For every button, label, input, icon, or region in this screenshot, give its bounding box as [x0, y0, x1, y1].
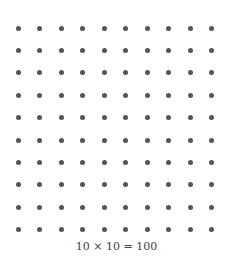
- dot: [102, 205, 107, 210]
- dot: [145, 227, 150, 232]
- dot: [166, 205, 171, 210]
- dot: [59, 26, 64, 31]
- dot: [37, 138, 42, 143]
- dot: [102, 93, 107, 98]
- dot: [145, 115, 150, 120]
- dot: [37, 205, 42, 210]
- dot: [209, 70, 214, 75]
- dot: [209, 138, 214, 143]
- dot: [123, 115, 128, 120]
- dot: [16, 115, 21, 120]
- dot: [145, 138, 150, 143]
- dot: [209, 182, 214, 187]
- dot: [145, 70, 150, 75]
- dot: [188, 227, 193, 232]
- dot: [37, 182, 42, 187]
- dot: [145, 160, 150, 165]
- dot: [59, 48, 64, 53]
- dot: [80, 182, 85, 187]
- dot: [209, 93, 214, 98]
- dot: [16, 93, 21, 98]
- dot: [59, 138, 64, 143]
- dot: [188, 160, 193, 165]
- dot: [59, 205, 64, 210]
- dot: [80, 26, 85, 31]
- dot: [16, 138, 21, 143]
- dot: [37, 48, 42, 53]
- dot: [37, 93, 42, 98]
- caption: 10 × 10 = 100: [0, 240, 233, 253]
- dot: [16, 70, 21, 75]
- dot: [16, 160, 21, 165]
- dot: [123, 93, 128, 98]
- dot: [59, 93, 64, 98]
- dot: [80, 70, 85, 75]
- dot: [59, 160, 64, 165]
- dot: [80, 138, 85, 143]
- dot: [209, 227, 214, 232]
- dot: [80, 93, 85, 98]
- dot: [59, 70, 64, 75]
- dot: [188, 182, 193, 187]
- dot: [37, 227, 42, 232]
- dot: [123, 138, 128, 143]
- dot: [102, 182, 107, 187]
- dot: [209, 26, 214, 31]
- dot: [145, 182, 150, 187]
- dot: [209, 205, 214, 210]
- dot: [102, 115, 107, 120]
- dot: [123, 205, 128, 210]
- dot: [123, 182, 128, 187]
- dot: [166, 138, 171, 143]
- dot: [59, 227, 64, 232]
- dot: [166, 227, 171, 232]
- dot: [102, 48, 107, 53]
- dot: [102, 26, 107, 31]
- dot: [188, 115, 193, 120]
- dot: [166, 26, 171, 31]
- dot: [188, 26, 193, 31]
- dot: [16, 227, 21, 232]
- dot: [188, 138, 193, 143]
- dot-array: [0, 0, 233, 268]
- dot: [123, 48, 128, 53]
- dot: [123, 160, 128, 165]
- dot: [102, 160, 107, 165]
- dot: [102, 70, 107, 75]
- dot: [166, 115, 171, 120]
- dot: [37, 115, 42, 120]
- dot: [80, 160, 85, 165]
- dot: [37, 26, 42, 31]
- dot: [188, 93, 193, 98]
- dot: [80, 227, 85, 232]
- dot: [188, 205, 193, 210]
- dot: [102, 227, 107, 232]
- dot: [145, 205, 150, 210]
- dot: [102, 138, 107, 143]
- dot: [80, 48, 85, 53]
- dot: [188, 48, 193, 53]
- dot: [166, 93, 171, 98]
- dot: [123, 227, 128, 232]
- dot: [16, 182, 21, 187]
- dot: [16, 48, 21, 53]
- dot: [37, 70, 42, 75]
- dot: [166, 70, 171, 75]
- dot: [166, 160, 171, 165]
- dot: [80, 115, 85, 120]
- dot: [209, 160, 214, 165]
- dot: [166, 48, 171, 53]
- dot: [16, 205, 21, 210]
- dot: [123, 26, 128, 31]
- dot: [166, 182, 171, 187]
- dot: [209, 48, 214, 53]
- dot: [80, 205, 85, 210]
- dot: [209, 115, 214, 120]
- dot: [145, 93, 150, 98]
- dot: [188, 70, 193, 75]
- dot: [123, 70, 128, 75]
- dot: [59, 182, 64, 187]
- dot: [145, 26, 150, 31]
- dot: [145, 48, 150, 53]
- dot: [16, 26, 21, 31]
